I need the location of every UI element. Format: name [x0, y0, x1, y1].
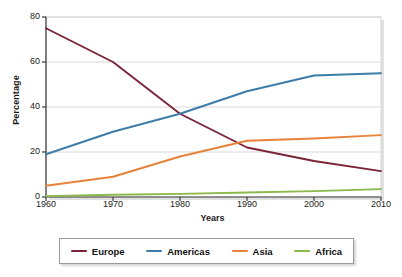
chart-figure: Percentage 020406080 1960197019801990200…	[0, 0, 402, 277]
chart-plot-container: Percentage 020406080 1960197019801990200…	[0, 0, 402, 232]
legend-item-africa[interactable]: Africa	[294, 246, 342, 257]
legend-item-asia[interactable]: Asia	[232, 246, 273, 257]
legend-label: Americas	[167, 246, 210, 257]
x-tick-label: 1980	[160, 200, 200, 209]
line-chart-svg	[0, 0, 402, 232]
legend-item-americas[interactable]: Americas	[146, 246, 210, 257]
x-tick-label: 2000	[294, 200, 334, 209]
legend-swatch-icon	[232, 250, 248, 252]
x-tick-label: 2010	[361, 200, 401, 209]
legend-label: Europe	[92, 246, 125, 257]
legend-swatch-icon	[71, 250, 87, 252]
chart-legend: EuropeAmericasAsiaAfrica	[59, 238, 354, 264]
x-axis-label: Years	[45, 213, 380, 223]
legend-item-europe[interactable]: Europe	[71, 246, 125, 257]
legend-label: Africa	[315, 246, 342, 257]
legend-label: Asia	[253, 246, 273, 257]
legend-swatch-icon	[146, 250, 162, 252]
x-tick-label: 1970	[93, 200, 133, 209]
legend-swatch-icon	[294, 250, 310, 252]
x-tick-label: 1960	[26, 200, 66, 209]
x-tick-label: 1990	[227, 200, 267, 209]
